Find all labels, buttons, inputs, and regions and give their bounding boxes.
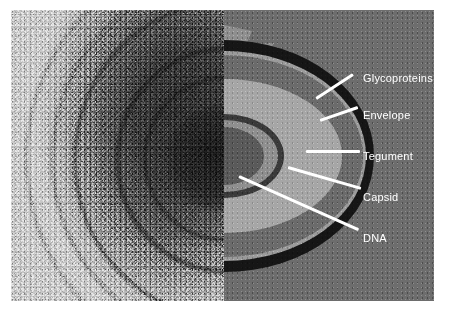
label-dna: DNA	[363, 233, 387, 244]
image-plate: Glycoproteins Envelope Tegument Capsid D…	[11, 10, 434, 301]
micrograph-grain-fine	[11, 10, 224, 301]
electron-micrograph-panel	[11, 10, 224, 301]
label-capsid: Capsid	[363, 192, 398, 203]
label-glycoproteins: Glycoproteins	[363, 73, 433, 84]
label-envelope: Envelope	[363, 110, 410, 121]
label-tegument: Tegument	[363, 151, 413, 162]
leader-line-tegument	[306, 150, 360, 153]
virus-structure-figure: Glycoproteins Envelope Tegument Capsid D…	[0, 0, 450, 321]
